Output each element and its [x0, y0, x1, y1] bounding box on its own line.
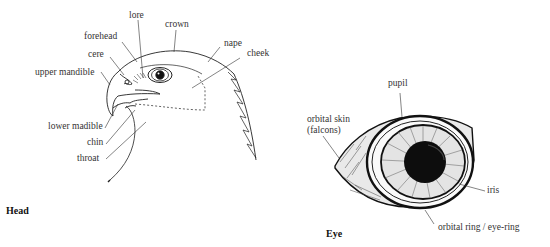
- label-throat: throat: [77, 153, 99, 164]
- label-iris: iris: [487, 185, 499, 196]
- label-cere: cere: [88, 49, 104, 60]
- label-orbital-skin-line1: orbital skin: [307, 114, 350, 124]
- eye-title: Eye: [326, 228, 342, 239]
- label-forehead: forehead: [84, 31, 117, 42]
- head-leader-lines: [101, 20, 240, 159]
- label-nape: nape: [224, 38, 242, 49]
- label-lower-mandible: lower madible: [48, 121, 103, 132]
- label-orbital-skin: orbital skin (falcons): [307, 114, 350, 136]
- falcon-eye-illustration: [335, 116, 474, 208]
- label-crown: crown: [165, 19, 189, 30]
- label-orbital-skin-line2: (falcons): [307, 125, 341, 135]
- label-orbital-ring: orbital ring / eye-ring: [438, 222, 520, 233]
- label-pupil: pupil: [388, 78, 408, 89]
- label-chin: chin: [87, 137, 103, 148]
- head-title: Head: [6, 205, 29, 216]
- label-lore: lore: [129, 10, 144, 21]
- label-cheek: cheek: [247, 48, 269, 59]
- label-upper-mandible: upper mandible: [35, 67, 94, 78]
